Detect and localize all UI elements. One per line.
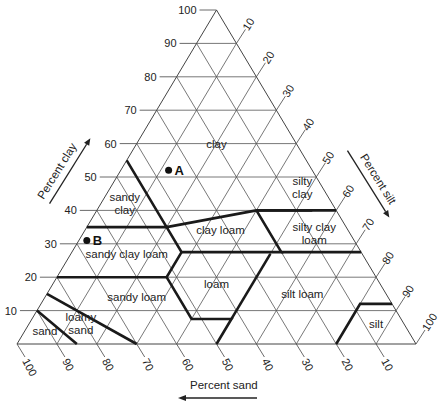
sample-point-label: B [93,233,102,248]
silt-tick-label: 90 [400,283,417,300]
sand-tick [376,344,384,357]
sand-tick-label: 60 [180,356,196,372]
sand-tick [296,344,304,357]
class-label-silty-clay: clay [292,188,313,200]
silt-tick [276,96,285,110]
sand-tick-label: 30 [300,356,316,372]
sand-tick-label: 70 [140,356,156,372]
sand-tick-label: 50 [220,356,236,372]
clay-axis-title: Percent clay [35,129,93,205]
class-label-loamy-sand: sand [68,324,93,336]
class-label-sandy-clay-loam: sandy clay loam [85,248,167,260]
silt-tick-label: 70 [360,216,377,233]
sand-tick [17,344,25,357]
class-label-silt: silt [369,318,384,330]
sand-axis-label: Percent sand [190,379,258,391]
clay-tick-label: 40 [65,204,77,216]
silt-tick-label: 80 [380,250,397,267]
silt-axis-label: Percent silt [358,152,399,207]
silt-tick [416,330,425,344]
clay-tick-label: 30 [45,238,57,250]
sand-tick [256,344,264,357]
sample-point-B [83,237,90,244]
class-label-sandy-clay: clay [115,204,136,216]
clay-tick-label: 80 [144,71,156,83]
class-label-loamy-sand: loamy [65,311,96,323]
sand-tick [137,344,145,357]
clay-tick-label: 20 [25,271,37,283]
class-label-silty-clay-loam: silty clay [293,221,337,233]
silt-tick-label: 20 [260,49,277,66]
class-label-clay-loam: clay loam [196,224,245,236]
silt-tick-label: 60 [340,183,357,200]
grid-lines [17,10,416,344]
class-label-loam: loam [204,278,229,290]
clay-tick-label: 70 [124,104,136,116]
class-label-sand: sand [32,325,57,337]
arrow-head-icon [84,137,93,146]
silt-tick [316,163,325,177]
sand-tick [217,344,225,357]
sand-tick-label: 40 [260,356,276,372]
texture-class-labels: claysandyclaysiltyclayclay loamsilty cla… [32,138,383,337]
sand-tick-label: 90 [60,356,76,372]
silt-tick [376,263,385,277]
silt-axis-title: Percent silt [345,142,404,220]
class-label-silt-loam: silt loam [281,288,323,300]
silt-tick [256,63,265,77]
clay-tick-label: 10 [5,305,17,317]
class-label-silty-clay-loam: loam [302,234,327,246]
clay-tick-label: 60 [104,138,116,150]
silt-tick [356,230,365,244]
clay-tick-label: 50 [85,171,97,183]
silt-tick-label: 100 [420,311,440,333]
clay-tick-label: 90 [164,37,176,49]
class-label-sandy-loam: sandy loam [107,291,166,303]
arrow-head-icon [178,395,186,401]
arrow-head-icon [383,210,392,219]
silt-tick [336,196,345,210]
sample-point-A [165,167,172,174]
sand-tick [57,344,65,357]
silt-tick [296,130,305,144]
silt-tick-label: 50 [320,149,337,166]
sand-tick-label: 100 [20,356,39,378]
silt-tick-label: 30 [280,83,297,100]
sample-point-label: A [175,163,185,178]
class-label-silty-clay: silty [292,175,312,187]
silt-tick-label: 10 [240,16,257,33]
sand-tick [336,344,344,357]
sand-tick [97,344,105,357]
sand-tick-label: 80 [100,356,116,372]
silt-tick-label: 40 [300,116,317,133]
sand-tick-label: 20 [339,356,355,372]
texture-boundary [231,254,270,319]
silt-tick [236,29,245,43]
class-label-clay: clay [206,138,227,150]
clay-tick-label: 100 [178,4,196,16]
sand-tick-label: 10 [379,356,395,372]
silt-tick [396,297,405,311]
class-label-sandy-clay: sandy [109,191,140,203]
sand-tick [177,344,185,357]
soil-texture-triangle: 1020304050607080901001020304050607080901… [0,0,448,410]
sand-axis-title: Percent sand [178,379,258,401]
